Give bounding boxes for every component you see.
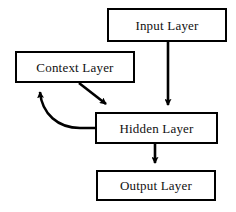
node-hidden-layer-label: Hidden Layer (119, 122, 193, 135)
node-input-layer[interactable]: Input Layer (107, 8, 227, 42)
node-output-layer-label: Output Layer (120, 179, 192, 192)
edge-context-to-hidden (79, 83, 106, 104)
diagram-canvas: Input Layer Context Layer Hidden Layer O… (0, 0, 236, 212)
node-context-layer-label: Context Layer (36, 61, 113, 74)
node-input-layer-label: Input Layer (135, 19, 198, 32)
node-context-layer[interactable]: Context Layer (15, 51, 135, 83)
node-output-layer[interactable]: Output Layer (96, 170, 216, 201)
node-hidden-layer[interactable]: Hidden Layer (95, 112, 218, 144)
edge-hidden-to-context-feedback (40, 92, 95, 128)
